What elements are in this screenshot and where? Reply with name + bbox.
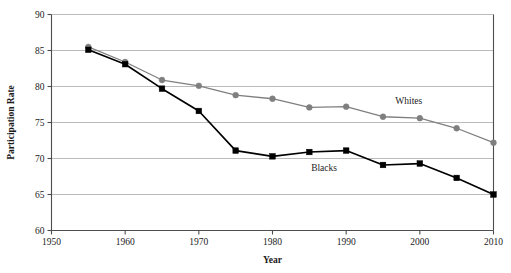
y-tick-label-70: 70 (35, 154, 45, 164)
data-point-blacks-2005 (454, 175, 460, 181)
x-tick-label-1960: 1960 (116, 237, 135, 247)
data-point-whites-1975 (233, 92, 239, 98)
x-tick-label-1950: 1950 (42, 237, 61, 247)
data-point-whites-2000 (417, 115, 423, 121)
data-point-blacks-2000 (417, 161, 423, 167)
x-tick-label-1990: 1990 (337, 237, 356, 247)
data-point-whites-1965 (159, 77, 165, 83)
x-tick-group: 1950196019701980199020002010 (42, 231, 503, 248)
series-annotation-blacks: Blacks (311, 163, 337, 173)
chart-container: 60657075808590 1950196019701980199020002… (0, 0, 511, 273)
data-point-blacks-1955 (86, 47, 92, 53)
data-point-blacks-1995 (380, 162, 386, 168)
series-annotation-whites: Whites (395, 96, 422, 106)
y-tick-label-90: 90 (35, 10, 45, 20)
data-point-whites-1970 (196, 83, 202, 89)
x-axis-title: Year (263, 255, 283, 265)
series-line-whites (88, 47, 493, 143)
x-tick-label-1970: 1970 (189, 237, 208, 247)
y-tick-label-65: 65 (35, 190, 45, 200)
data-point-whites-1985 (306, 104, 312, 110)
data-series-group (85, 44, 496, 197)
data-point-blacks-1990 (343, 148, 349, 154)
participation-rate-line-chart: 60657075808590 1950196019701980199020002… (0, 0, 511, 273)
data-point-blacks-1980 (270, 154, 276, 160)
y-tick-label-60: 60 (35, 226, 45, 236)
y-tick-label-85: 85 (35, 46, 45, 56)
x-tick-label-2000: 2000 (410, 237, 429, 247)
data-point-blacks-1960 (122, 61, 128, 67)
data-point-blacks-2010 (491, 192, 497, 198)
data-point-whites-1980 (270, 96, 276, 102)
data-point-blacks-1975 (233, 148, 239, 154)
y-tick-group: 60657075808590 (35, 10, 52, 236)
data-point-whites-2010 (491, 140, 497, 146)
y-axis-title: Participation Rate (6, 85, 16, 160)
y-tick-label-75: 75 (35, 118, 45, 128)
data-point-blacks-1970 (196, 108, 202, 114)
gridlines-group (52, 15, 494, 231)
x-tick-label-1980: 1980 (263, 237, 282, 247)
data-point-whites-1995 (380, 114, 386, 120)
data-point-blacks-1965 (159, 86, 165, 92)
data-point-whites-2005 (454, 125, 460, 131)
data-point-whites-1990 (343, 104, 349, 110)
x-tick-label-2010: 2010 (484, 237, 503, 247)
y-tick-label-80: 80 (35, 82, 45, 92)
data-point-blacks-1985 (307, 149, 313, 155)
